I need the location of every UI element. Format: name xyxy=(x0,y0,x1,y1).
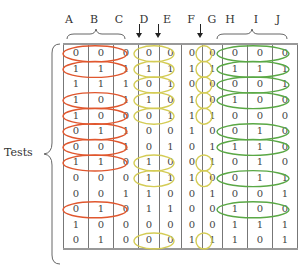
cell-f: 1 xyxy=(182,107,203,123)
cell-a: 1 xyxy=(64,107,89,123)
cell-j: 0 xyxy=(273,123,298,139)
brace-hij-icon xyxy=(216,28,288,40)
cell-c: 0 xyxy=(114,232,139,249)
cell-e: 0 xyxy=(160,92,182,108)
cell-c: 1 xyxy=(114,61,139,77)
cell-g: 1 xyxy=(203,61,223,77)
cell-d: 0 xyxy=(139,139,160,155)
cell-i: 0 xyxy=(248,92,273,108)
cell-d: 1 xyxy=(139,61,160,77)
cell-d: 1 xyxy=(139,185,160,201)
cell-d: 1 xyxy=(139,92,160,108)
cell-a: 0 xyxy=(64,170,89,186)
table-row: 1101001010 xyxy=(64,154,298,170)
cell-c: 1 xyxy=(114,185,139,201)
table-row: 0110010010 xyxy=(64,123,298,139)
cell-j: 1 xyxy=(273,185,298,201)
table-row: 1000111000 xyxy=(64,107,298,123)
cell-g: 1 xyxy=(203,232,223,249)
cell-a: 0 xyxy=(64,44,89,61)
cell-j: 0 xyxy=(273,139,298,155)
cell-g: 0 xyxy=(203,170,223,186)
cell-i: 0 xyxy=(248,44,273,61)
cell-h: 1 xyxy=(223,201,248,217)
cell-g: 0 xyxy=(203,44,223,61)
column-header-h: H xyxy=(225,13,235,26)
cell-e: 0 xyxy=(160,217,182,233)
cell-d: 0 xyxy=(139,123,160,139)
cell-c: 0 xyxy=(114,170,139,186)
cell-i: 0 xyxy=(248,107,273,123)
cell-j: 1 xyxy=(273,76,298,92)
arrow-down-icon-g xyxy=(200,24,201,34)
cell-g: 1 xyxy=(203,185,223,201)
cell-f: 1 xyxy=(182,61,203,77)
column-header-j: J xyxy=(276,13,280,26)
cell-g: 1 xyxy=(203,139,223,155)
cell-c: 0 xyxy=(114,44,139,61)
cell-b: 0 xyxy=(89,217,114,233)
cell-h: 1 xyxy=(223,217,248,233)
cell-d: 0 xyxy=(139,76,160,92)
row-group-label: Tests xyxy=(4,146,33,159)
cell-b: 1 xyxy=(89,76,114,92)
cell-b: 1 xyxy=(89,201,114,217)
cell-h: 0 xyxy=(223,170,248,186)
cell-j: 0 xyxy=(273,201,298,217)
cell-f: 0 xyxy=(182,201,203,217)
column-header-b: B xyxy=(90,13,98,26)
cell-b: 0 xyxy=(89,44,114,61)
cell-i: 0 xyxy=(248,185,273,201)
cell-b: 0 xyxy=(89,107,114,123)
cell-h: 1 xyxy=(223,232,248,249)
cell-g: 1 xyxy=(203,107,223,123)
table-row: 0100011101 xyxy=(64,232,298,249)
cell-e: 1 xyxy=(160,61,182,77)
cell-i: 1 xyxy=(248,154,273,170)
column-header-i: I xyxy=(254,13,258,26)
cell-h: 0 xyxy=(223,107,248,123)
cell-h: 0 xyxy=(223,123,248,139)
cell-f: 1 xyxy=(182,170,203,186)
cell-f: 0 xyxy=(182,76,203,92)
cell-a: 0 xyxy=(64,123,89,139)
cell-c: 1 xyxy=(114,123,139,139)
cell-h: 1 xyxy=(223,139,248,155)
table-row: 1000000111 xyxy=(64,217,298,233)
cell-j: 1 xyxy=(273,232,298,249)
cell-e: 1 xyxy=(160,139,182,155)
cell-a: 1 xyxy=(64,61,89,77)
cell-a: 1 xyxy=(64,217,89,233)
truth-table: 0000000000111111111111101000011011010100… xyxy=(63,43,298,250)
arrow-down-icon-e xyxy=(158,24,159,34)
table-row: 0000000000 xyxy=(64,44,298,61)
cell-e: 1 xyxy=(160,201,182,217)
cell-b: 1 xyxy=(89,154,114,170)
column-header-d: D xyxy=(140,13,149,26)
cell-j: 1 xyxy=(273,217,298,233)
cell-g: 1 xyxy=(203,154,223,170)
cell-e: 0 xyxy=(160,232,182,249)
cell-b: 0 xyxy=(89,139,114,155)
table-row: 1011010100 xyxy=(64,92,298,108)
cell-g: 0 xyxy=(203,201,223,217)
cell-f: 1 xyxy=(182,123,203,139)
cell-i: 1 xyxy=(248,123,273,139)
cell-f: 0 xyxy=(182,217,203,233)
cell-j: 1 xyxy=(273,170,298,186)
cell-e: 0 xyxy=(160,154,182,170)
cell-c: 1 xyxy=(114,139,139,155)
brace-tests-icon xyxy=(42,43,62,265)
column-header-a: A xyxy=(65,13,73,26)
cell-i: 1 xyxy=(248,170,273,186)
cell-a: 0 xyxy=(64,201,89,217)
cell-e: 1 xyxy=(160,76,182,92)
cell-j: 0 xyxy=(273,92,298,108)
cell-d: 1 xyxy=(139,170,160,186)
column-header-f: F xyxy=(187,13,195,26)
cell-j: 0 xyxy=(273,107,298,123)
cell-h: 1 xyxy=(223,92,248,108)
cell-h: 0 xyxy=(223,185,248,201)
cell-h: 0 xyxy=(223,76,248,92)
table-row: 1110100001 xyxy=(64,76,298,92)
